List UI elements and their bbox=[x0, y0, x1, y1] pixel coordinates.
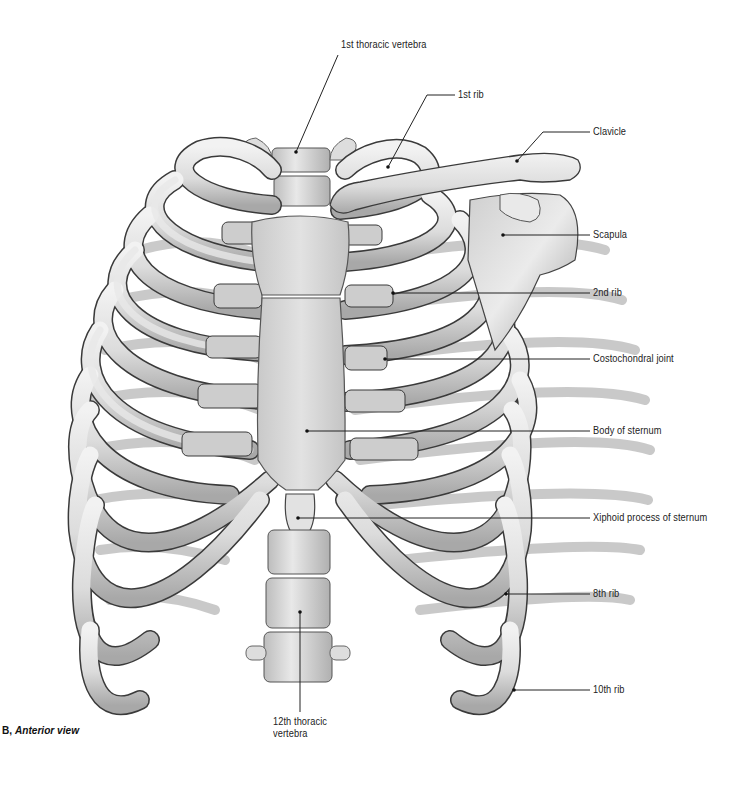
label-body-of-sternum: Body of sternum bbox=[593, 424, 662, 436]
caption-title: Anterior view bbox=[15, 724, 79, 736]
label-tenth-rib: 10th rib bbox=[593, 683, 625, 695]
label-first-rib: 1st rib bbox=[458, 88, 484, 100]
caption-prefix: B, bbox=[2, 724, 12, 736]
figure: 1st thoracic vertebra 1st rib Clavicle S… bbox=[0, 0, 755, 790]
label-clavicle: Clavicle bbox=[593, 125, 626, 137]
scapula bbox=[468, 193, 578, 350]
label-second-rib: 2nd rib bbox=[593, 286, 622, 298]
figure-caption: B, Anterior view bbox=[2, 724, 79, 736]
lower-vertebrae bbox=[246, 530, 350, 682]
label-eighth-rib: 8th rib bbox=[593, 587, 619, 599]
label-costochondral-joint: Costochondral joint bbox=[593, 352, 674, 364]
label-xiphoid-process: Xiphoid process of sternum bbox=[593, 511, 707, 523]
label-first-thoracic-vertebra: 1st thoracic vertebra bbox=[341, 38, 427, 50]
label-twelfth-thoracic-vertebra: 12th thoracic vertebra bbox=[273, 715, 343, 739]
label-scapula: Scapula bbox=[593, 228, 627, 240]
rib-cage-illustration bbox=[0, 0, 755, 790]
